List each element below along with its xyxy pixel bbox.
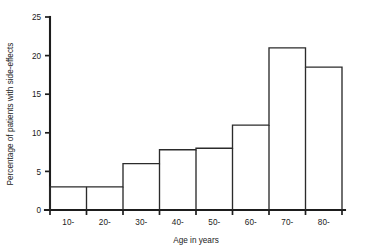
x-tick-label: 50- <box>208 218 220 227</box>
x-tick-label: 30- <box>135 218 147 227</box>
histogram-svg: 0510152025 10-20-30-40-50-60-70-80- Age … <box>0 0 370 252</box>
y-tick-label: 10 <box>32 129 42 138</box>
x-tick-labels: 10-20-30-40-50-60-70-80- <box>62 218 330 227</box>
y-tick-label: 20 <box>32 52 42 61</box>
y-tick-label: 5 <box>36 168 41 177</box>
histogram-figure: 0510152025 10-20-30-40-50-60-70-80- Age … <box>0 0 370 252</box>
y-tick-label: 25 <box>32 13 42 22</box>
y-tick-labels: 0510152025 <box>32 13 42 215</box>
x-tick-label: 60- <box>245 218 257 227</box>
y-axis-title: Percentage of patients with side-effects <box>6 43 15 186</box>
y-tick-label: 0 <box>36 206 41 215</box>
x-axis-title: Age in years <box>173 236 219 245</box>
y-tick-label: 15 <box>32 90 42 99</box>
x-tick-label: 10- <box>62 218 74 227</box>
x-tick-label: 40- <box>172 218 184 227</box>
x-tick-label: 20- <box>99 218 111 227</box>
axes-group <box>45 17 345 210</box>
x-tick-label: 80- <box>318 218 330 227</box>
x-tick-label: 70- <box>281 218 293 227</box>
bars-group <box>50 48 342 210</box>
